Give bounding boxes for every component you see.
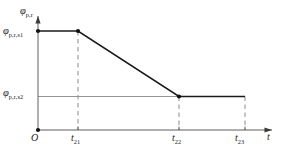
x-axis-label-symbol: t xyxy=(267,131,270,142)
plot-canvas xyxy=(0,0,285,153)
y-tick-label-phi-s2-symbol: φ xyxy=(3,87,9,98)
y-axis-label-subscript: p,r xyxy=(26,11,33,18)
x-axis-label: t xyxy=(267,132,270,142)
data-point-marker-t21 xyxy=(76,29,80,33)
y-tick-label-phi-s1-symbol: φ xyxy=(3,25,9,36)
x-tick-label-t21-subscript: 21 xyxy=(74,138,81,145)
y-tick-label-phi-s2: φp,r,s2 xyxy=(3,88,23,99)
data-point-marker-start xyxy=(36,29,40,33)
x-tick-label-t23-subscript: 23 xyxy=(238,138,245,145)
y-tick-label-phi-s1: φp,r,s1 xyxy=(3,26,23,37)
origin-label: O xyxy=(31,133,38,143)
x-tick-label-t22: t22 xyxy=(172,133,181,143)
chart-figure: φp,r φp,r,s1 φp,r,s2 O t21 t22 t23 t xyxy=(0,0,285,153)
origin-label-text: O xyxy=(31,132,38,143)
x-tick-label-t22-subscript: 22 xyxy=(175,138,182,145)
y-axis-arrowhead xyxy=(35,16,40,24)
y-tick-label-phi-s2-subscript: p,r,s2 xyxy=(9,93,24,100)
x-tick-label-t21: t21 xyxy=(71,133,80,143)
curve-phi-pr xyxy=(38,31,245,97)
data-point-marker-t22 xyxy=(177,94,181,98)
x-tick-label-t23: t23 xyxy=(235,133,244,143)
y-axis-label: φp,r xyxy=(20,6,33,17)
y-axis-label-symbol: φ xyxy=(20,5,26,16)
y-tick-label-phi-s1-subscript: p,r,s1 xyxy=(9,31,24,38)
